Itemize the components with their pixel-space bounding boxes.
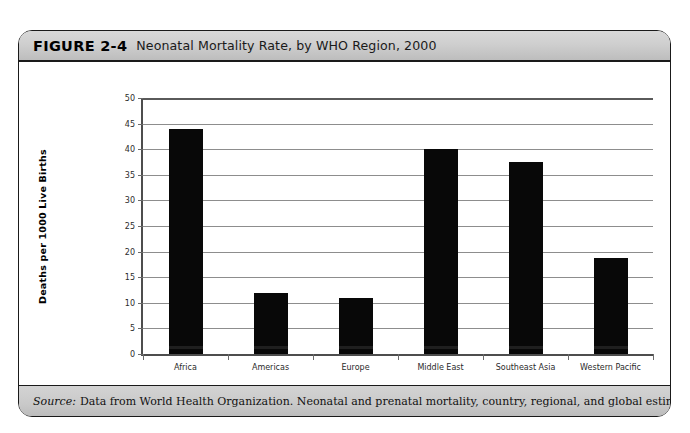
bar-western-pacific — [594, 258, 628, 354]
bar-base-shade — [254, 346, 288, 349]
bar-base-shade — [509, 346, 543, 349]
x-axis-tick — [398, 354, 399, 360]
gridline — [143, 328, 653, 329]
gridline — [143, 277, 653, 278]
figure-container: FIGURE 2-4 Neonatal Mortality Rate, by W… — [18, 30, 671, 417]
y-axis-title: Deaths per 1000 Live Births — [33, 98, 51, 354]
y-axis-tick — [138, 175, 143, 176]
bar-middle-east — [424, 149, 458, 354]
x-axis-tick-label: Western Pacific — [561, 363, 661, 372]
source-text: Data from World Health Organization. Neo… — [80, 395, 670, 408]
y-axis-tick-label: 50 — [111, 94, 135, 103]
bar-africa — [169, 129, 203, 354]
bar-southeast-asia — [509, 162, 543, 354]
y-axis-tick — [138, 252, 143, 253]
x-axis-tick — [143, 354, 144, 360]
figure-number: FIGURE 2-4 — [33, 38, 127, 54]
source-label: Source: — [33, 395, 76, 408]
gridline — [143, 149, 653, 150]
gridline — [143, 252, 653, 253]
bar-base-shade — [169, 346, 203, 349]
gridline — [143, 200, 653, 201]
y-axis-tick — [138, 124, 143, 125]
y-axis-tick — [138, 328, 143, 329]
x-axis-tick — [313, 354, 314, 360]
bar-americas — [254, 293, 288, 354]
y-axis-title-text: Deaths per 1000 Live Births — [37, 149, 48, 304]
x-axis-tick — [568, 354, 569, 360]
y-axis-tick — [138, 226, 143, 227]
x-axis-tick — [483, 354, 484, 360]
y-axis-tick-label: 35 — [111, 170, 135, 179]
gridline — [143, 226, 653, 227]
y-axis-tick — [138, 98, 143, 99]
y-axis-tick-label: 15 — [111, 273, 135, 282]
y-axis-tick-label: 0 — [111, 350, 135, 359]
chart-area: Deaths per 1000 Live Births 051015202530… — [19, 62, 670, 385]
figure-title: Neonatal Mortality Rate, by WHO Region, … — [136, 38, 436, 53]
y-axis-tick-label: 10 — [111, 298, 135, 307]
y-axis-tick-label: 40 — [111, 145, 135, 154]
figure-header: FIGURE 2-4 Neonatal Mortality Rate, by W… — [19, 31, 670, 62]
x-axis-tick — [228, 354, 229, 360]
y-axis-tick-label: 20 — [111, 247, 135, 256]
plot-area: 05101520253035404550AfricaAmericasEurope… — [141, 98, 653, 354]
gridline — [143, 303, 653, 304]
gridline — [143, 124, 653, 125]
gridline — [143, 98, 653, 100]
bar-base-shade — [339, 346, 373, 349]
x-axis-line — [141, 354, 653, 356]
y-axis-tick-label: 30 — [111, 196, 135, 205]
gridline — [143, 175, 653, 176]
bar-europe — [339, 298, 373, 354]
source-band: Source: Data from World Health Organizat… — [19, 385, 670, 416]
y-axis-tick — [138, 303, 143, 304]
y-axis-tick — [138, 277, 143, 278]
x-axis-tick — [653, 354, 654, 360]
y-axis-tick — [138, 149, 143, 150]
y-axis-tick-label: 45 — [111, 119, 135, 128]
bar-base-shade — [424, 346, 458, 349]
y-axis-tick-label: 5 — [111, 324, 135, 333]
bar-base-shade — [594, 346, 628, 349]
y-axis-tick-label: 25 — [111, 222, 135, 231]
y-axis-tick — [138, 200, 143, 201]
